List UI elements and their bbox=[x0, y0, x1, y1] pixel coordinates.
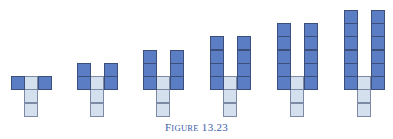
blue-tile bbox=[237, 50, 251, 64]
blue-tile bbox=[277, 23, 291, 37]
blue-tile bbox=[143, 63, 157, 77]
blue-tile bbox=[304, 63, 318, 77]
blue-tile bbox=[371, 23, 385, 37]
blue-tile bbox=[371, 50, 385, 64]
blue-tile bbox=[170, 50, 184, 64]
blue-tile bbox=[104, 63, 118, 77]
blue-tile bbox=[344, 10, 358, 24]
blue-tile bbox=[210, 36, 224, 50]
blue-tile bbox=[304, 23, 318, 37]
blue-tile bbox=[143, 50, 157, 64]
blue-tile bbox=[210, 50, 224, 64]
blue-tile bbox=[277, 50, 291, 64]
light-tile bbox=[290, 103, 304, 117]
light-tile bbox=[223, 89, 237, 103]
blue-tile bbox=[77, 63, 91, 77]
blue-tile bbox=[371, 36, 385, 50]
light-tile bbox=[357, 103, 371, 117]
blue-tile bbox=[277, 76, 291, 90]
light-tile bbox=[90, 89, 104, 103]
light-tile bbox=[24, 76, 38, 90]
blue-tile bbox=[344, 36, 358, 50]
blue-tile bbox=[304, 76, 318, 90]
blue-tile bbox=[371, 76, 385, 90]
blue-tile bbox=[277, 63, 291, 77]
blue-tile bbox=[344, 50, 358, 64]
light-tile bbox=[24, 103, 38, 117]
light-tile bbox=[156, 103, 170, 117]
blue-tile bbox=[344, 23, 358, 37]
light-tile bbox=[290, 89, 304, 103]
light-tile bbox=[223, 76, 237, 90]
blue-tile bbox=[304, 36, 318, 50]
blue-tile bbox=[170, 63, 184, 77]
figure-caption: FIGURE 13.23 bbox=[0, 121, 393, 133]
light-tile bbox=[223, 103, 237, 117]
blue-tile bbox=[143, 76, 157, 90]
blue-tile bbox=[237, 76, 251, 90]
light-tile bbox=[156, 76, 170, 90]
light-tile bbox=[156, 89, 170, 103]
blue-tile bbox=[38, 76, 52, 90]
caption-number: 13.23 bbox=[202, 121, 228, 133]
blue-tile bbox=[371, 10, 385, 24]
blue-tile bbox=[344, 76, 358, 90]
light-tile bbox=[357, 76, 371, 90]
light-tile bbox=[357, 89, 371, 103]
light-tile bbox=[90, 103, 104, 117]
blue-tile bbox=[11, 76, 25, 90]
blue-tile bbox=[170, 76, 184, 90]
blue-tile bbox=[210, 76, 224, 90]
light-tile bbox=[290, 76, 304, 90]
blue-tile bbox=[277, 36, 291, 50]
blue-tile bbox=[104, 76, 118, 90]
blue-tile bbox=[77, 76, 91, 90]
light-tile bbox=[24, 89, 38, 103]
blue-tile bbox=[371, 63, 385, 77]
blue-tile bbox=[237, 63, 251, 77]
light-tile bbox=[90, 76, 104, 90]
blue-tile bbox=[344, 63, 358, 77]
caption-smallcaps: IGURE bbox=[171, 123, 198, 133]
blue-tile bbox=[210, 63, 224, 77]
blue-tile bbox=[304, 50, 318, 64]
blue-tile bbox=[237, 36, 251, 50]
